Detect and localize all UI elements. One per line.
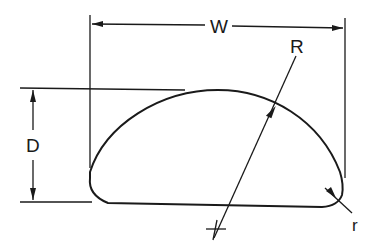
depth-label: D [26,135,40,156]
corner-radius-label: r [352,216,358,235]
arrowhead-icon [30,90,36,102]
cross-section-diagram: W D R r [0,0,371,245]
profile-outline [90,90,343,207]
arrowhead-icon [326,187,336,198]
major-radius-line [214,56,296,238]
arrowhead-icon [92,21,103,27]
center-mark-icon [206,220,226,240]
width-label: W [210,16,228,37]
depth-extension-line-top [20,88,185,90]
major-radius-label: R [290,36,304,57]
arrowhead-icon [332,25,343,31]
arrowhead-icon [30,188,36,200]
arrowhead-icon [266,104,277,118]
